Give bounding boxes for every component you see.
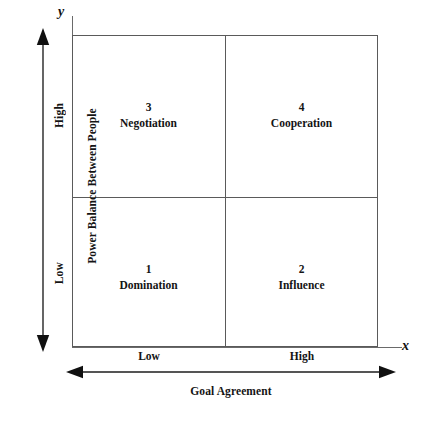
quadrant-diagram: 3 Negotiation 4 Cooperation 1 Domination… bbox=[0, 0, 423, 425]
quadrant-4-cooperation: 4 Cooperation bbox=[225, 100, 378, 132]
quadrant-4-number: 4 bbox=[225, 100, 378, 116]
x-axis-label-low: Low bbox=[89, 350, 209, 362]
x-axis-double-arrow-icon bbox=[66, 365, 396, 379]
matrix-vertical-divider bbox=[225, 35, 226, 347]
quadrant-2-influence: 2 Influence bbox=[225, 262, 378, 294]
x-axis-letter: x bbox=[402, 338, 409, 354]
quadrant-2-label: Influence bbox=[225, 278, 378, 294]
matrix-horizontal-divider bbox=[72, 197, 378, 198]
y-axis-label-high: High bbox=[53, 103, 65, 128]
y-axis-label-low: Low bbox=[53, 262, 65, 284]
quadrant-2-number: 2 bbox=[225, 262, 378, 278]
x-axis-title: Goal Agreement bbox=[66, 385, 396, 397]
y-axis-double-arrow-icon bbox=[36, 28, 50, 352]
x-axis-label-high: High bbox=[242, 350, 362, 362]
y-axis-title: Power Balance Between People bbox=[86, 16, 98, 356]
quadrant-4-label: Cooperation bbox=[225, 116, 378, 132]
y-axis-letter: y bbox=[58, 4, 64, 20]
x-axis-line bbox=[72, 347, 402, 348]
